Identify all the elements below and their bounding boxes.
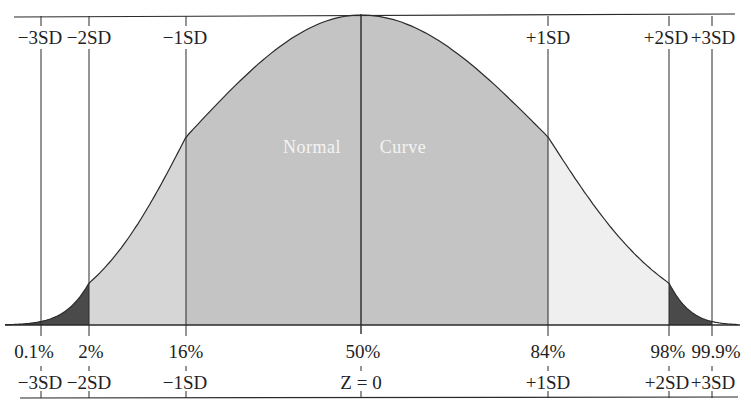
shaded-region-4: [669, 283, 712, 325]
bottom-sd-label: +2SD: [645, 372, 690, 393]
percent-label: 16%: [169, 341, 204, 362]
bottom-rule: [20, 397, 738, 398]
bottom-sd-label: −3SD: [18, 372, 63, 393]
bottom-sd-label: Z = 0: [340, 372, 381, 393]
normal-curve-label-right: Curve: [380, 137, 427, 157]
bottom-sd-label: +1SD: [526, 372, 571, 393]
percent-label: 84%: [531, 341, 566, 362]
bottom-sd-label: +3SD: [691, 372, 736, 393]
bottom-sd-label: −2SD: [67, 372, 112, 393]
bottom-sd-label: −1SD: [163, 372, 208, 393]
top-sd-label: −3SD: [18, 27, 63, 48]
top-sd-label: −1SD: [163, 27, 208, 48]
percent-label: 98%: [651, 341, 686, 362]
percent-label: 0.1%: [14, 341, 54, 362]
percent-label: 2%: [78, 341, 104, 362]
normal-curve-diagram: −3SD−2SD−1SD+1SD+2SD+3SD0.1%2%16%50%84%9…: [0, 0, 751, 404]
top-sd-label: +1SD: [526, 27, 571, 48]
shaded-region-0: [5, 283, 89, 325]
percent-label: 50%: [346, 341, 381, 362]
percent-label: 99.9%: [691, 341, 740, 362]
top-sd-label: +3SD: [691, 27, 736, 48]
shaded-region-2: [186, 15, 548, 325]
normal-curve-label-left: Normal: [283, 137, 341, 157]
top-sd-label: −2SD: [67, 27, 112, 48]
top-sd-label: +2SD: [644, 27, 689, 48]
